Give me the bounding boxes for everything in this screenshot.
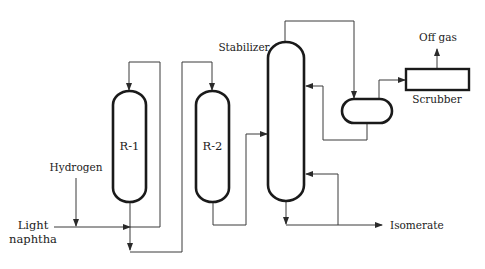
reflux-drum: [342, 99, 392, 123]
reactor-r1-label: R-1: [120, 139, 140, 153]
isomerate-label: Isomerate: [390, 219, 444, 231]
scrubber-label: Scrubber: [412, 93, 463, 105]
scrubber: [406, 69, 469, 90]
stabilizer-column: [268, 42, 304, 201]
stabilizer-label: Stabilizer: [218, 41, 270, 53]
off-gas-label: Off gas: [419, 31, 457, 43]
light-naphtha-label-1: Light: [18, 218, 49, 232]
reactor-r2-label: R-2: [203, 139, 223, 153]
hydrogen-label: Hydrogen: [50, 161, 103, 173]
drum-to-scrubber-line: [379, 80, 405, 99]
process-flow-diagram: Hydrogen Light naphtha Off gas Isomerate…: [0, 0, 485, 269]
reboiler-return-line: [306, 174, 338, 225]
light-naphtha-label-2: naphtha: [9, 232, 57, 246]
